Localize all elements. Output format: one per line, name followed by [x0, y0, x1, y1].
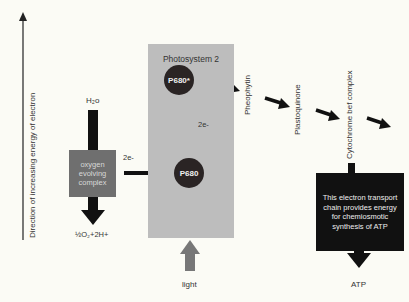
oxygen-evolving-complex: oxygen evolving complex: [69, 150, 116, 197]
arrow-plastoquinone-to-cytochrome: [316, 110, 340, 121]
arrow-cytochrome-onward: [367, 118, 391, 129]
p680-star-label: P680*: [168, 76, 190, 85]
chain-plastoquinone: Plastoquinone: [294, 84, 302, 135]
etc-description-box: This electron transport chain provides e…: [316, 173, 404, 251]
photosystem-title: Photosystem 2: [148, 54, 234, 64]
p680-label: P680: [180, 169, 199, 178]
energy-axis-arrow: [19, 12, 27, 240]
oxygen-complex-label: oxygen evolving complex: [69, 160, 116, 187]
electrons-in-label: 2e-: [123, 154, 134, 162]
p680-node: P680: [174, 158, 204, 188]
light-arrow: [180, 240, 200, 271]
axis-label: Direction of increasing energy of electr…: [29, 93, 37, 238]
oxygen-output-label: ½O₂+2H+: [75, 231, 108, 239]
light-label: light: [182, 281, 197, 289]
oxygen-down-arrow: [81, 197, 105, 225]
arrow-pheophytin-to-plastoquinone: [265, 98, 290, 109]
etc-description: This electron transport chain provides e…: [320, 193, 400, 231]
chain-pheophytin: Pheophytin: [244, 75, 252, 115]
water-bar: [88, 110, 98, 150]
water-label: H₂o: [86, 97, 99, 105]
atp-down-arrow: [347, 250, 371, 268]
electrons-up-label: 2e-: [198, 121, 209, 129]
atp-label: ATP: [351, 281, 366, 289]
p680-star-node: P680*: [164, 65, 194, 95]
chain-cytochrome: Cytochrome bef complex: [346, 71, 354, 159]
